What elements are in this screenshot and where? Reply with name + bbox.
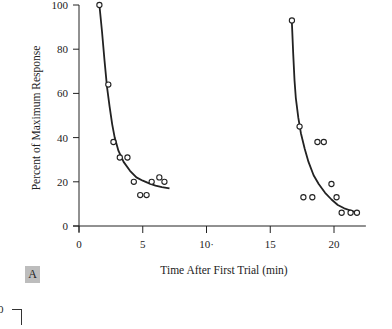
data-point [157, 175, 162, 180]
data-point [131, 179, 136, 184]
data-point [144, 192, 149, 197]
axes: 0204060801000510·1520 [52, 0, 366, 250]
data-point [354, 210, 359, 215]
panel-label: A [25, 266, 40, 283]
data-point [348, 210, 353, 215]
data-points [97, 2, 360, 215]
fit-curve-1 [99, 5, 169, 188]
data-point [339, 210, 344, 215]
data-point [334, 195, 339, 200]
y-axis-title: Percent of Maximum Response [30, 46, 43, 191]
x-tick-label: 0 [76, 238, 82, 250]
data-point [111, 139, 116, 144]
data-point [329, 181, 334, 186]
stray-tick-label: 0 [0, 303, 4, 315]
data-point [149, 179, 154, 184]
data-point [125, 155, 130, 160]
data-point [106, 82, 111, 87]
chart-plot: 0204060801000510·1520 Percent of Maximum… [0, 0, 392, 329]
fit-curves [99, 5, 357, 213]
data-point [97, 2, 102, 7]
y-tick-label: 0 [63, 220, 69, 232]
y-tick-label: 60 [57, 87, 69, 99]
data-point [301, 195, 306, 200]
data-point [117, 155, 122, 160]
data-point [297, 124, 302, 129]
data-point [162, 179, 167, 184]
y-tick-label: 40 [57, 132, 69, 144]
data-point [289, 18, 294, 23]
y-tick-label: 20 [57, 176, 69, 188]
data-point [315, 139, 320, 144]
fit-curve-2 [292, 23, 357, 213]
stray-axis-bracket [12, 309, 22, 325]
x-tick-label: 20 [329, 238, 341, 250]
data-point [310, 195, 315, 200]
data-point [138, 192, 143, 197]
x-tick-label: 15 [265, 238, 277, 250]
x-axis-title: Time After First Trial (min) [160, 264, 288, 277]
data-point [321, 139, 326, 144]
y-tick-label: 80 [57, 43, 69, 55]
y-tick-label: 100 [52, 0, 69, 11]
x-tick-label: 5 [140, 238, 146, 250]
x-tick-label: 10· [199, 238, 214, 250]
